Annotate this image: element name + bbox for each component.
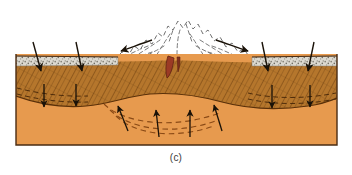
figure-root: (c) — [0, 0, 352, 175]
surface-deposit-left — [16, 56, 118, 66]
figure-caption: (c) — [0, 152, 352, 164]
geologic-cross-section-diagram — [0, 0, 352, 175]
ground-block — [16, 54, 337, 145]
